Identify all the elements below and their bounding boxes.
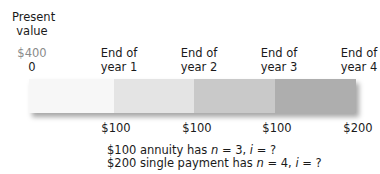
timeline-segment-year-2 bbox=[114, 79, 194, 113]
time-point-2-line1: End of bbox=[174, 46, 224, 60]
present-value-label-line2: value bbox=[12, 24, 52, 38]
timeline-segment-year-4 bbox=[275, 79, 356, 113]
timeline-segment-year-3 bbox=[194, 79, 275, 113]
timeline-bar bbox=[29, 79, 356, 113]
time-point-0-label: 0 bbox=[12, 60, 52, 74]
timeline-segment-year-1 bbox=[29, 79, 114, 113]
time-point-3-line1: End of bbox=[254, 46, 304, 60]
cash-flow-year-4: $200 bbox=[333, 121, 380, 135]
time-point-1: End of year 1 bbox=[94, 46, 144, 74]
present-value-label-line1: Present bbox=[12, 10, 52, 24]
present-value-label: Present value bbox=[12, 10, 52, 38]
cash-flow-year-2: $100 bbox=[172, 121, 222, 135]
single-payment-note-line2: $200 single payment has n = 4, i = ? bbox=[107, 157, 322, 170]
time-point-0: $400 0 bbox=[12, 46, 52, 74]
present-value-amount: $400 bbox=[12, 46, 52, 60]
time-point-2: End of year 2 bbox=[174, 46, 224, 74]
time-point-1-line2: year 1 bbox=[94, 60, 144, 74]
time-point-2-line2: year 2 bbox=[174, 60, 224, 74]
time-point-3: End of year 3 bbox=[254, 46, 304, 74]
annuity-note: $100 annuity has n = 3, i = ? $200 singl… bbox=[107, 144, 322, 170]
time-point-4-line1: End of bbox=[334, 46, 380, 60]
time-point-3-line2: year 3 bbox=[254, 60, 304, 74]
cash-flow-year-3: $100 bbox=[252, 121, 302, 135]
cash-flow-year-1: $100 bbox=[91, 121, 141, 135]
time-point-4: End of year 4 bbox=[334, 46, 380, 74]
time-point-1-line1: End of bbox=[94, 46, 144, 60]
time-point-4-line2: year 4 bbox=[334, 60, 380, 74]
